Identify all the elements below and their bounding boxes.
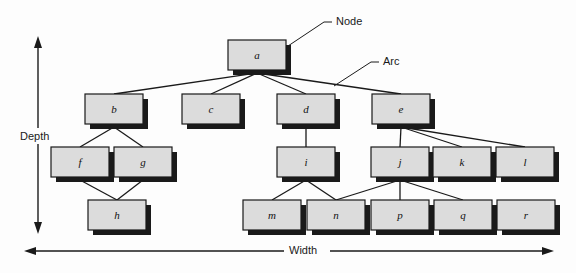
width-axis: Width — [24, 244, 554, 256]
depth-axis-label: Depth — [20, 130, 49, 142]
arc-f-h — [80, 180, 117, 200]
node-label: n — [333, 209, 339, 221]
arc-annotation-label: Arc — [383, 55, 400, 67]
tree-node-b[interactable]: b — [85, 94, 148, 129]
arc-a-e — [257, 73, 401, 94]
node-label: b — [111, 103, 117, 115]
node-label: a — [254, 49, 260, 61]
arc-g-h — [117, 180, 143, 200]
arc-b-g — [114, 127, 143, 147]
node-label: d — [303, 103, 309, 115]
tree-node-q[interactable]: q — [434, 200, 497, 235]
node-label: i — [304, 156, 307, 168]
tree-node-m[interactable]: m — [243, 200, 306, 235]
node-annotation: Node — [288, 15, 362, 46]
tree-node-k[interactable]: k — [433, 147, 496, 182]
arc-b-f — [80, 127, 114, 147]
arc-annotation: Arc — [334, 55, 400, 86]
tree-node-f[interactable]: f — [51, 147, 114, 182]
tree-diagram-canvas: abcdefgijklhmnpqr Node Arc Depth Width — [0, 0, 576, 273]
tree-node-h[interactable]: h — [88, 200, 151, 235]
arc-e-j — [400, 127, 401, 147]
arc-j-q — [400, 180, 463, 200]
node-label: q — [460, 209, 466, 221]
arc-e-l — [401, 127, 525, 147]
tree-node-d[interactable]: d — [277, 94, 340, 129]
node-label: h — [114, 209, 120, 221]
tree-node-g[interactable]: g — [114, 147, 177, 182]
node-label: c — [209, 103, 214, 115]
node-label: r — [524, 209, 529, 221]
tree-node-p[interactable]: p — [371, 200, 434, 235]
tree-node-c[interactable]: c — [182, 94, 245, 129]
arc-e-k — [401, 127, 462, 147]
node-label: g — [140, 156, 146, 168]
tree-node-l[interactable]: l — [496, 147, 559, 182]
arc-i-n — [306, 180, 336, 200]
node-label: p — [396, 209, 403, 221]
tree-node-e[interactable]: e — [372, 94, 435, 129]
node-label: m — [268, 209, 276, 221]
depth-axis: Depth — [16, 36, 60, 234]
tree-node-r[interactable]: r — [497, 200, 560, 235]
width-axis-label: Width — [289, 244, 317, 256]
tree-node-j[interactable]: j — [371, 147, 434, 182]
arc-j-n — [336, 180, 400, 200]
node-label: l — [523, 156, 526, 168]
node-label: e — [399, 103, 404, 115]
tree-node-i[interactable]: i — [277, 147, 340, 182]
node-annotation-label: Node — [336, 15, 362, 27]
tree-node-n[interactable]: n — [307, 200, 370, 235]
arc-i-m — [272, 180, 306, 200]
tree-node-a[interactable]: a — [228, 40, 291, 75]
